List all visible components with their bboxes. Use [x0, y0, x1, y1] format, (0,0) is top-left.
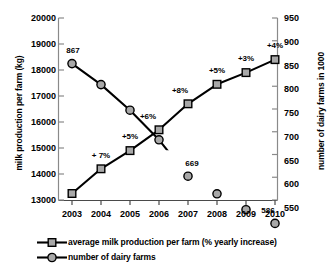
chart-legend: average milk production per farm (% year… — [36, 234, 326, 264]
legend-square-marker-icon — [36, 235, 68, 248]
chart-container: milk production per farm (kg) number of … — [0, 0, 334, 274]
legend-item-milk-production[interactable]: average milk production per farm (% year… — [36, 234, 326, 249]
legend-label-dairy-farms: number of dairy farms — [68, 252, 156, 262]
legend-circle-marker-icon — [36, 250, 68, 263]
x-axis-tick-labels: 2003 2004 2005 2006 2007 2008 2009 2010 — [0, 0, 334, 274]
legend-label-milk-production: average milk production per farm (% year… — [68, 237, 277, 247]
x-tick-label-2010: 2010 — [255, 210, 295, 219]
legend-item-dairy-farms[interactable]: number of dairy farms — [36, 249, 326, 264]
